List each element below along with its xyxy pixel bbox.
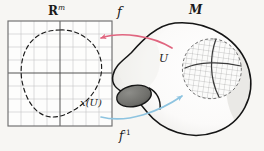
figure-root: Rm f M U x(U) f-1 [0,0,264,151]
manifold-chart-diagram [0,0,264,151]
label-neighborhood-U: U [159,53,168,64]
manifold-surface [113,23,264,136]
label-euclidean-space: Rm [48,4,65,17]
label-map-f-inverse-exponent: -1 [123,128,130,137]
label-map-f-inverse: f-1 [119,129,131,142]
euclidean-chart-panel [8,21,112,126]
label-manifold-M: M [189,4,202,16]
label-euclidean-space-exponent: m [58,3,65,12]
label-map-f: f [117,5,122,18]
label-euclidean-space-symbol: R [48,4,58,18]
label-chart-image-xU: x(U) [80,98,102,108]
